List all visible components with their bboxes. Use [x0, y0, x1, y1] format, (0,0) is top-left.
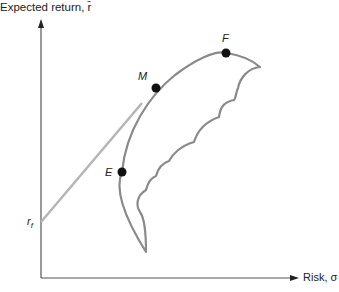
point-F	[222, 49, 231, 58]
point-label-M: M	[138, 70, 147, 82]
point-label-E: E	[105, 166, 112, 178]
point-label-F: F	[222, 32, 229, 44]
x-axis-label: Risk, σ	[303, 271, 337, 283]
x-axis-arrow-icon	[290, 275, 299, 281]
point-M	[152, 84, 161, 93]
point-E	[118, 168, 127, 177]
risk-free-label: rf	[27, 215, 33, 230]
efficient-frontier-diagram	[0, 0, 339, 292]
risk-free-label-sub: f	[31, 221, 33, 230]
feasible-region-boundary	[119, 52, 260, 252]
capital-market-line	[41, 103, 142, 222]
y-axis-arrow-icon	[38, 19, 44, 28]
